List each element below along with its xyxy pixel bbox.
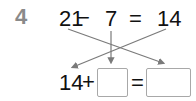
arrow-14-to-addend [73,29,166,67]
arrow-21-to-result [68,29,163,63]
equals-sign-bottom: = [131,72,144,94]
plus-sign: + [82,71,95,93]
answer-box-2[interactable] [146,68,191,97]
addend: 14 [59,72,83,94]
answer-box-1[interactable] [97,68,128,97]
